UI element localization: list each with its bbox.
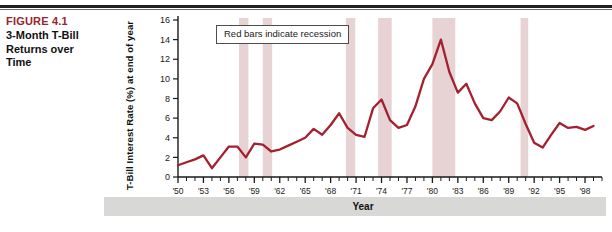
x-axis-tick-label: '92 <box>529 186 540 196</box>
x-axis-tick-label: '95 <box>554 186 565 196</box>
x-axis-tick-label: '71 <box>351 186 362 196</box>
x-axis-tick-label: '86 <box>478 186 489 196</box>
x-axis-tick-label: '53 <box>198 186 209 196</box>
x-axis-tick-label: '68 <box>325 186 336 196</box>
figure-title-line-2: Returns over <box>6 43 118 57</box>
y-axis-tick-label: 2 <box>165 153 170 163</box>
x-axis-tick-label: '65 <box>300 186 311 196</box>
y-axis-tick-label: 0 <box>165 172 170 182</box>
y-axis-tick-label: 10 <box>160 74 170 84</box>
x-axis-tick-label: '83 <box>452 186 463 196</box>
legend-recession-note: Red bars indicate recession <box>216 25 349 44</box>
x-axis-title-text: Year <box>352 201 373 212</box>
figure-caption: FIGURE 4.1 3-Month T-Bill Returns over T… <box>6 14 118 70</box>
x-axis-tick-label: '50 <box>172 186 183 196</box>
year-band-left-filler <box>104 197 120 216</box>
figure-title-line-1: 3-Month T-Bill <box>6 29 118 43</box>
figure-number: FIGURE 4.1 <box>6 14 118 28</box>
x-axis-tick-label: '89 <box>503 186 514 196</box>
x-axis-tick-label: '77 <box>401 186 412 196</box>
y-axis-tick-label: 12 <box>160 54 170 64</box>
figure-title-line-3: Time <box>6 56 118 70</box>
x-axis-tick-label: '59 <box>249 186 260 196</box>
x-axis-title-band: Year <box>120 197 606 216</box>
x-axis-tick-label: '74 <box>376 186 387 196</box>
y-axis-tick-label: 14 <box>160 35 170 45</box>
y-axis-tick-label: 8 <box>165 94 170 104</box>
y-axis-title-text: T-Bill Interest Rate (%) at end of year <box>125 20 136 189</box>
x-axis-tick-label: '98 <box>580 186 591 196</box>
recession-bar <box>432 18 455 177</box>
recession-bar <box>378 18 392 177</box>
x-axis-tick-label: '80 <box>427 186 438 196</box>
y-axis-title: T-Bill Interest Rate (%) at end of year <box>121 12 139 198</box>
x-axis-tick-label: '62 <box>274 186 285 196</box>
y-axis-tick-label: 16 <box>160 15 170 25</box>
recession-bar <box>521 18 529 177</box>
figure-container: FIGURE 4.1 3-Month T-Bill Returns over T… <box>0 0 612 232</box>
x-axis-tick-label: '56 <box>223 186 234 196</box>
line-chart: 0246810121416'50'53'56'59'62'65'68'71'74… <box>140 12 606 198</box>
plot-area: 0246810121416'50'53'56'59'62'65'68'71'74… <box>140 12 606 198</box>
y-axis-tick-label: 4 <box>165 133 170 143</box>
figure-title: 3-Month T-Bill Returns over Time <box>6 29 118 70</box>
top-rule-thick <box>0 5 612 8</box>
chart-panel: T-Bill Interest Rate (%) at end of year … <box>120 12 606 220</box>
y-axis-tick-label: 6 <box>165 113 170 123</box>
top-rule-thin <box>0 9 612 10</box>
legend-recession-text: Red bars indicate recession <box>224 28 341 39</box>
